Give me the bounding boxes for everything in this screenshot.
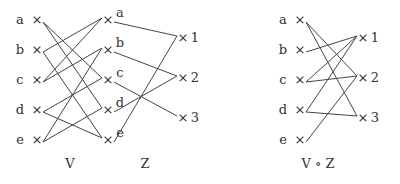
diagram-caption: V: [64, 156, 75, 171]
node-marker: ×: [32, 42, 43, 57]
right-node-label: 3: [371, 110, 379, 125]
node-marker: ×: [295, 72, 306, 87]
left-node-label: b: [279, 42, 287, 57]
left-node-label: e: [279, 132, 287, 147]
node-marker: ×: [32, 102, 43, 117]
relation-edge: [306, 112, 357, 116]
node-marker: ×: [32, 12, 43, 27]
left-node-label: a: [16, 12, 24, 27]
node-marker: ×: [103, 42, 114, 57]
node-marker: ×: [178, 110, 189, 125]
left-node-label: c: [279, 72, 286, 87]
left-node-label: d: [16, 102, 24, 117]
diagram-caption: V ∘ Z: [300, 156, 334, 171]
right-node-label: 1: [191, 30, 199, 45]
right-node-label: 2: [191, 70, 199, 85]
relation-edge: [306, 36, 357, 82]
node-marker: ×: [103, 102, 114, 117]
node-marker: ×: [178, 30, 189, 45]
relation-edge: [43, 18, 102, 82]
node-marker: ×: [295, 12, 306, 27]
relation-edge: [114, 76, 177, 112]
node-marker: ×: [178, 70, 189, 85]
relation-edge: [306, 22, 357, 116]
diagram-caption: Z: [140, 156, 149, 171]
relation-edge: [114, 22, 177, 36]
left-node-label: d: [279, 102, 287, 117]
node-marker: ×: [358, 70, 369, 85]
node-marker: ×: [32, 132, 43, 147]
right-node-label: b: [116, 35, 124, 50]
node-marker: ×: [103, 12, 114, 27]
relation-diagrams: a×b×c×d×e××a×b×c×d×eV×1×2×3Za×b×c×d×e××1…: [0, 0, 400, 184]
node-marker: ×: [295, 132, 306, 147]
node-marker: ×: [358, 110, 369, 125]
node-marker: ×: [103, 132, 114, 147]
relation-edge: [306, 76, 357, 82]
right-node-label: 3: [191, 110, 199, 125]
relation-edge: [306, 36, 357, 112]
right-node-label: 1: [371, 30, 379, 45]
node-marker: ×: [358, 30, 369, 45]
node-marker: ×: [32, 72, 43, 87]
node-marker: ×: [295, 102, 306, 117]
right-node-label: c: [116, 65, 123, 80]
relation-edge: [306, 22, 357, 76]
relation-edge: [114, 36, 177, 142]
left-node-label: b: [16, 42, 24, 57]
relation-edge: [306, 76, 357, 142]
right-node-label: a: [116, 5, 124, 20]
node-marker: ×: [103, 72, 114, 87]
right-node-label: d: [116, 95, 124, 110]
left-node-label: a: [279, 12, 287, 27]
right-node-label: 2: [371, 70, 379, 85]
left-node-label: e: [16, 132, 24, 147]
node-marker: ×: [295, 42, 306, 57]
left-node-label: c: [16, 72, 23, 87]
